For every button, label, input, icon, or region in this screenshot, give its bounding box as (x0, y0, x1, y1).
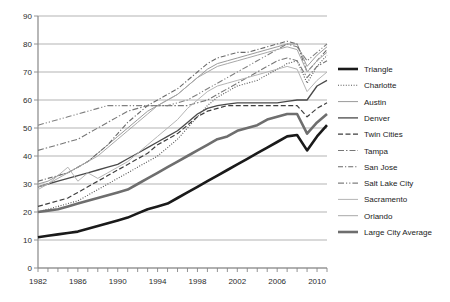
x-tick-label: 2006 (268, 277, 286, 286)
x-axis-line (38, 268, 327, 272)
y-tick-label: 20 (23, 208, 32, 217)
y-tick-label: 70 (23, 68, 32, 77)
x-tick-label: 1998 (189, 277, 207, 286)
legend-label: Twin Cities (364, 130, 403, 139)
x-tick-label: 2010 (308, 277, 326, 286)
y-tick-label: 0 (28, 264, 33, 273)
legend-label: Large City Average (364, 228, 432, 237)
legend-label: Charlotte (364, 81, 397, 90)
legend-label: San Jose (364, 163, 398, 172)
legend-label: Tampa (364, 147, 389, 156)
legend-label: Orlando (364, 212, 393, 221)
x-tick-label: 1990 (109, 277, 127, 286)
legend-label: Salt Lake City (364, 179, 413, 188)
legend-label: Triangle (364, 65, 393, 74)
y-tick-label: 10 (23, 236, 32, 245)
y-tick-label: 40 (23, 152, 32, 161)
y-tick-label: 50 (23, 124, 32, 133)
x-tick-label: 1982 (29, 277, 47, 286)
chart-legend: TriangleCharlotteAustinDenverTwin Cities… (338, 65, 432, 237)
data-series-group (38, 41, 327, 237)
x-axis-tick-labels: 19821986199019941998200220062010 (29, 277, 326, 286)
legend-label: Denver (364, 114, 390, 123)
y-tick-label: 60 (23, 96, 32, 105)
line-chart: 0102030405060708090 19821986199019941998… (0, 0, 450, 302)
x-tick-label: 1994 (149, 277, 167, 286)
y-tick-label: 30 (23, 180, 32, 189)
legend-label: Austin (364, 98, 386, 107)
series-line (38, 55, 327, 212)
chart-screenshot: 0102030405060708090 19821986199019941998… (0, 0, 450, 302)
y-tick-label: 80 (23, 40, 32, 49)
legend-label: Sacramento (364, 195, 408, 204)
y-tick-label: 90 (23, 12, 32, 21)
x-tick-label: 2002 (228, 277, 246, 286)
series-line (38, 125, 327, 237)
y-axis-tick-labels: 0102030405060708090 (23, 12, 38, 273)
series-line (38, 103, 327, 207)
x-tick-label: 1986 (69, 277, 87, 286)
